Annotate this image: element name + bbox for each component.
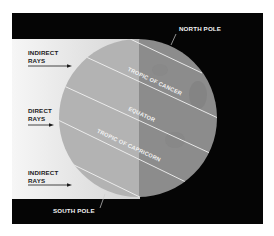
ray-label-line1: DIRECT (28, 107, 52, 114)
south-pole-label: SOUTH POLE (53, 207, 95, 214)
ray-label-line1: INDIRECT (28, 49, 58, 56)
north-pole-label: NORTH POLE (179, 25, 221, 32)
ray-label-line2: RAYS (28, 177, 45, 184)
ray-label-line2: RAYS (28, 115, 45, 122)
earth-sun-rays-diagram: TROPIC OF CANCER EQUATOR TROPIC OF CAPRI… (0, 0, 274, 236)
globe-texture (189, 81, 207, 109)
ray-label-line2: RAYS (28, 57, 45, 64)
globe-texture (152, 64, 168, 76)
ray-label-line1: INDIRECT (28, 169, 58, 176)
